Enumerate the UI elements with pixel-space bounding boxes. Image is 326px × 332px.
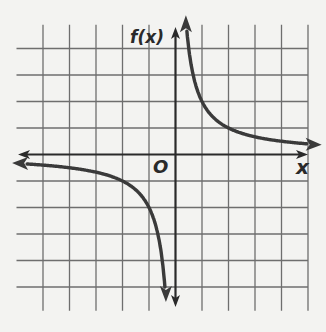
- x-axis-label: x: [296, 155, 309, 179]
- origin-label: O: [153, 156, 168, 177]
- curve-arrow-top-icon: [180, 15, 192, 32]
- curve-arrow-bottom-icon: [160, 286, 172, 302]
- y-axis-label: f(x): [130, 27, 164, 47]
